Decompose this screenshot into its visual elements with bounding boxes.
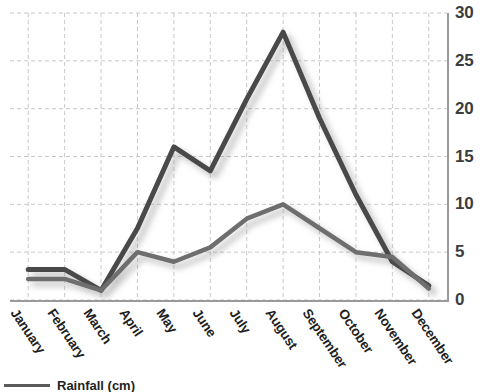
x-tick-label: March (81, 306, 115, 347)
y-tick-label: 30 (455, 4, 473, 21)
x-tick-label: July (226, 306, 253, 336)
x-axis (10, 300, 449, 302)
x-tick-label: April (117, 306, 146, 339)
x-tick-label: May (153, 306, 180, 336)
x-tick-label: June (190, 306, 220, 340)
x-tick-label: August (263, 306, 301, 352)
y-tick-label: 20 (455, 100, 473, 117)
line-chart: 051015202530 JanuaryFebruaryMarchAprilMa… (0, 0, 487, 392)
x-tick-label: January (8, 306, 49, 356)
y-tick-label: 10 (455, 195, 473, 212)
plot-area (10, 13, 447, 300)
chart-legend: Rainfall (cm) (4, 379, 135, 392)
series-lines (10, 13, 447, 300)
y-tick-label: 0 (455, 291, 464, 308)
legend-swatch-rainfall (4, 384, 50, 387)
x-tick-label: October (336, 306, 377, 356)
y-axis (447, 13, 449, 301)
y-tick-label: 5 (455, 243, 464, 260)
y-tick-label: 15 (455, 148, 473, 165)
y-tick-label: 25 (455, 52, 473, 69)
legend-label-rainfall: Rainfall (cm) (57, 379, 135, 392)
